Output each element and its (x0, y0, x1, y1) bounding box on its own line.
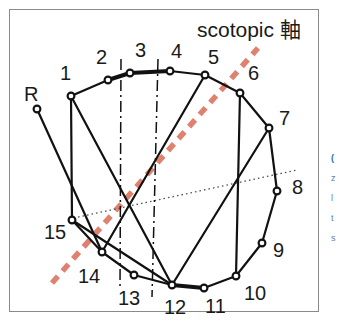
outer-ring-15-1 (71, 96, 72, 220)
data-point-10[interactable] (233, 273, 240, 280)
point-label-13: 13 (118, 288, 140, 308)
point-label-10: 10 (244, 283, 266, 303)
chord-6-10 (236, 93, 240, 276)
outer-ring-7-8 (269, 128, 277, 191)
data-point-2[interactable] (105, 77, 112, 84)
dashdot-left (120, 59, 121, 289)
point-label-1: 1 (60, 63, 71, 83)
data-point-15[interactable] (69, 217, 76, 224)
data-point-14[interactable] (99, 249, 106, 256)
outer-ring-4-5 (170, 71, 205, 75)
edge-text-fragment: s (331, 228, 341, 248)
outer-ring-1-2 (71, 80, 108, 96)
point-label-14: 14 (78, 266, 100, 286)
data-point-r[interactable] (34, 106, 41, 113)
point-label-8: 8 (292, 177, 303, 197)
point-label-9: 9 (273, 240, 284, 260)
outer-ring-10-11 (204, 276, 236, 288)
outer-ring-13-14 (102, 252, 134, 275)
outer-ring-6-7 (240, 93, 269, 128)
figure-container: scotopic 軸 R123456789101112131415 (zlts (0, 0, 341, 324)
point-label-15: 15 (44, 222, 66, 242)
data-point-4[interactable] (167, 68, 174, 75)
data-point-1[interactable] (68, 93, 75, 100)
dotted-axis (69, 170, 297, 219)
chord-7-12 (172, 128, 269, 285)
point-label-7: 7 (279, 108, 290, 128)
point-label-3: 3 (135, 40, 146, 60)
data-point-9[interactable] (259, 240, 266, 247)
edge-text-fragment: t (331, 208, 341, 228)
edge-text-fragment: ( (331, 148, 341, 168)
outer-ring-9-10 (236, 243, 262, 276)
dashdot-right (152, 59, 158, 297)
data-point-13[interactable] (131, 272, 138, 279)
data-point-11[interactable] (201, 285, 208, 292)
edge-text-fragment: z (331, 168, 341, 188)
outer-ring-8-9 (262, 191, 277, 243)
data-point-12[interactable] (169, 282, 176, 289)
point-label-12: 12 (164, 297, 186, 317)
chart-title: scotopic 軸 (197, 13, 301, 43)
point-label-r: R (24, 84, 38, 104)
point-label-11: 11 (205, 296, 226, 316)
point-label-5: 5 (208, 47, 219, 67)
edge-text-fragment: l (331, 188, 341, 208)
data-point-7[interactable] (266, 125, 273, 132)
chord-5-14 (102, 75, 205, 252)
outer-ring-3-4 (130, 71, 170, 73)
point-label-6: 6 (248, 63, 259, 83)
cropped-sidebar-text: (zlts (331, 148, 341, 313)
reference-lines-group (52, 48, 297, 297)
data-point-5[interactable] (202, 72, 209, 79)
outer-ring-11-12 (172, 285, 204, 288)
data-point-8[interactable] (274, 188, 281, 195)
data-point-6[interactable] (237, 90, 244, 97)
point-label-2: 2 (96, 47, 107, 67)
data-point-3[interactable] (127, 70, 134, 77)
point-label-4: 4 (171, 41, 182, 61)
